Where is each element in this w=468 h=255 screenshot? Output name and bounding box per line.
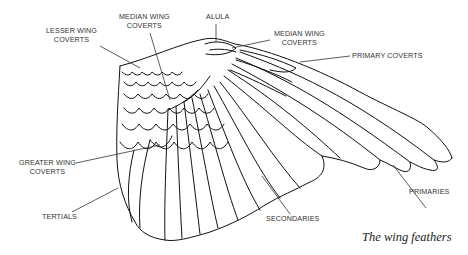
label-line: COVERTS bbox=[274, 39, 325, 48]
label-line: PRIMARIES bbox=[409, 188, 449, 197]
label-median-wing-coverts-right: MEDIAN WING COVERTS bbox=[274, 30, 325, 47]
label-line: COVERTS bbox=[19, 168, 76, 177]
figure-caption: The wing feathers bbox=[362, 230, 452, 245]
label-greater-wing-coverts: GREATER WING COVERTS bbox=[19, 159, 76, 176]
label-alula: ALULA bbox=[206, 13, 229, 22]
label-lesser-wing-coverts: LESSER WING COVERTS bbox=[46, 27, 97, 44]
label-secondaries: SECONDARIES bbox=[266, 215, 319, 224]
label-line: TERTIALS bbox=[42, 213, 77, 222]
label-primaries: PRIMARIES bbox=[409, 188, 449, 197]
label-line: COVERTS bbox=[46, 36, 97, 45]
label-primary-coverts: PRIMARY COVERTS bbox=[352, 52, 423, 61]
wing-feathers-diagram: LESSER WING COVERTS MEDIAN WING COVERTS … bbox=[0, 0, 468, 255]
label-line: ALULA bbox=[206, 13, 229, 22]
label-line: COVERTS bbox=[119, 22, 170, 31]
label-line: SECONDARIES bbox=[266, 215, 319, 224]
label-tertials: TERTIALS bbox=[42, 213, 77, 222]
label-line: PRIMARY COVERTS bbox=[352, 52, 423, 61]
label-median-wing-coverts-left: MEDIAN WING COVERTS bbox=[119, 13, 170, 30]
